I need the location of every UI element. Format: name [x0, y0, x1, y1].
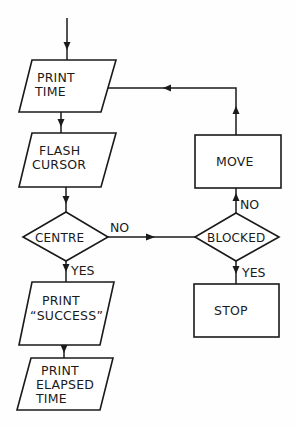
node-label: ELAPSED — [36, 377, 94, 392]
node-label: PRINT — [41, 363, 79, 378]
arrowhead-icon — [233, 193, 240, 201]
node-blocked: BLOCKED — [195, 213, 279, 261]
arrowhead-icon — [64, 42, 71, 50]
node-move: MOVE — [195, 135, 281, 188]
node-label: TIME — [34, 84, 66, 99]
node-label: PRINT — [42, 293, 80, 308]
node-label: CURSOR — [32, 157, 86, 172]
flowchart-svg: PRINT TIME FLASH CURSOR CENTRE PRINT “SU… — [0, 0, 297, 429]
arrowhead-icon — [233, 266, 240, 274]
node-print-time: PRINT TIME — [19, 60, 116, 112]
node-flash-cursor: FLASH CURSOR — [19, 133, 116, 187]
node-label: PRINT — [37, 70, 75, 85]
arrowhead-icon — [63, 196, 70, 204]
arrowhead-icon — [63, 264, 70, 272]
node-label: TIME — [35, 391, 67, 406]
edge-label-blocked-no: NO — [240, 197, 259, 212]
flowchart-canvas: PRINT TIME FLASH CURSOR CENTRE PRINT “SU… — [0, 0, 297, 429]
node-label: BLOCKED — [207, 231, 265, 245]
arrowhead-icon — [163, 85, 171, 92]
node-label: STOP — [214, 303, 248, 318]
node-centre: CENTRE — [23, 212, 108, 261]
node-label: CENTRE — [35, 231, 84, 245]
edge-label-centre-yes: YES — [70, 263, 95, 278]
edge-move-to-print-time — [108, 88, 236, 135]
node-print-elapsed-time: PRINT ELAPSED TIME — [17, 358, 113, 410]
node-stop: STOP — [194, 284, 279, 337]
node-print-success: PRINT “SUCCESS” — [19, 282, 114, 345]
arrowhead-icon — [61, 345, 68, 353]
node-label: MOVE — [216, 154, 254, 169]
edge-label-blocked-yes: YES — [241, 265, 266, 280]
edge-label-centre-no: NO — [110, 220, 129, 235]
node-label: “SUCCESS” — [30, 308, 103, 323]
arrowhead-icon — [233, 106, 240, 114]
arrowhead-icon — [58, 119, 65, 127]
node-label: FLASH — [39, 143, 80, 158]
arrowhead-icon — [146, 234, 155, 241]
